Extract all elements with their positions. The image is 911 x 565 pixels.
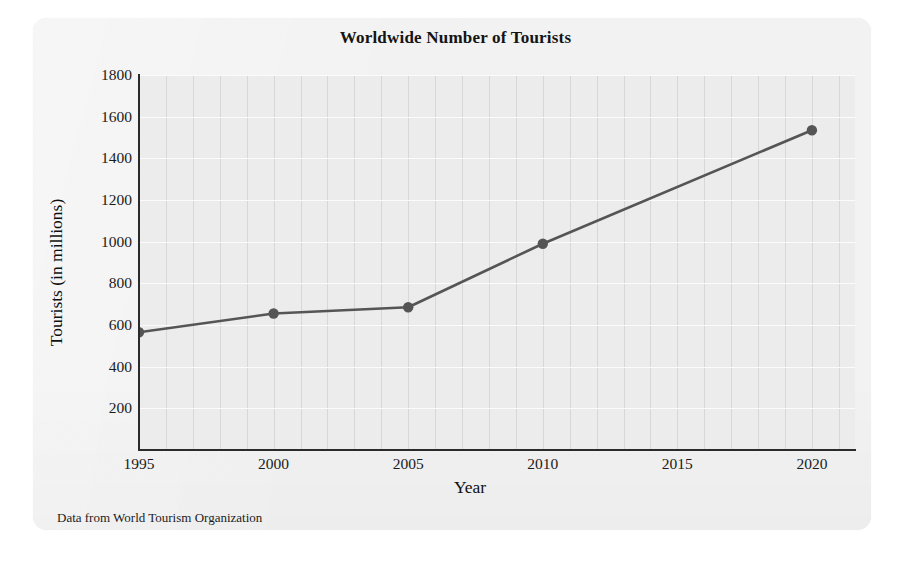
x-tick-label: 1995: [99, 455, 179, 473]
x-tick-label: 2020: [772, 455, 852, 473]
x-tick-label: 2000: [234, 455, 314, 473]
data-point-marker: [268, 308, 278, 318]
x-tick-label: 2010: [503, 455, 583, 473]
series-line: [139, 130, 812, 332]
source-note: Data from World Tourism Organization: [57, 510, 262, 526]
y-tick-label: 1800: [32, 66, 132, 84]
page-title: Worldwide Number of Tourists: [0, 28, 911, 48]
data-point-marker: [807, 125, 817, 135]
x-tick-label: 2015: [637, 455, 717, 473]
data-point-marker: [403, 302, 413, 312]
y-axis-line: [138, 74, 140, 451]
y-axis-title: Tourists (in millions): [46, 118, 67, 428]
y-axis-tick-labels: 20040060080010001200140016001800: [28, 0, 132, 565]
x-axis-title: Year: [330, 477, 610, 498]
chart-page: Worldwide Number of Tourists 20040060080…: [0, 0, 911, 565]
x-tick-label: 2005: [368, 455, 448, 473]
line-series: [139, 75, 855, 450]
plot-area: [139, 75, 855, 450]
x-axis-line: [138, 449, 856, 451]
data-point-marker: [538, 239, 548, 249]
